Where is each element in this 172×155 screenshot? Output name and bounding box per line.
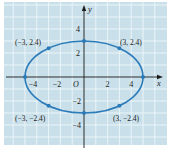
point-bottom-left: [47, 104, 51, 108]
point-label-top-right: (3, 2.4): [120, 38, 142, 47]
chart-svg: y x O −4 −2 2 4 4 2 −2 −4 (−3, 2.4) (3, …: [0, 0, 172, 155]
origin-label: O: [73, 80, 79, 89]
x-tick-label: −4: [29, 80, 38, 89]
point-top-left: [47, 46, 51, 50]
point-bottom-right: [117, 104, 121, 108]
y-tick-label: 4: [76, 25, 80, 34]
point-covertex-bottom: [82, 111, 86, 115]
ellipse-chart: y x O −4 −2 2 4 4 2 −2 −4 (−3, 2.4) (3, …: [0, 0, 172, 155]
point-label-bottom-left: (−3, −2.4): [15, 114, 46, 123]
y-tick-label: 2: [76, 49, 80, 58]
y-axis-label: y: [87, 4, 92, 14]
x-tick-label: 4: [129, 80, 133, 89]
point-vertex-right: [141, 75, 145, 79]
point-vertex-left: [23, 75, 27, 79]
x-axis-label: x: [156, 78, 161, 88]
x-tick-label: 2: [106, 80, 110, 89]
y-tick-label: −4: [72, 121, 81, 130]
point-covertex-top: [82, 39, 86, 43]
point-label-top-left: (−3, 2.4): [15, 38, 42, 47]
y-tick-label: −2: [72, 97, 81, 106]
point-label-bottom-right: (3, −2.4): [113, 114, 140, 123]
x-tick-label: −2: [53, 80, 62, 89]
